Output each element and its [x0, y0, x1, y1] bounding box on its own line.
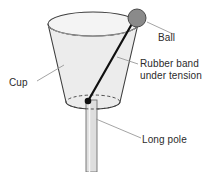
label-rubber-band-line1: Rubber band	[140, 58, 202, 70]
label-rubber-band: Rubber band under tension	[140, 58, 202, 81]
label-ball: Ball	[158, 32, 175, 44]
pole-leader-line	[96, 119, 141, 138]
apparatus-diagram: Ball Rubber band under tension Cup Long …	[0, 0, 208, 172]
long-pole	[86, 100, 97, 172]
label-rubber-band-line2: under tension	[140, 70, 202, 82]
ball	[128, 9, 146, 27]
label-cup: Cup	[9, 77, 28, 89]
label-long-pole: Long pole	[142, 134, 187, 146]
diagram-canvas	[0, 0, 208, 172]
rubber-band-anchor-dot	[85, 98, 92, 105]
